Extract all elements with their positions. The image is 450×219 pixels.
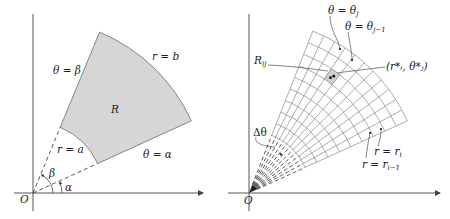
origin-label: O <box>244 194 253 206</box>
theta-alpha-label: θ = α <box>143 148 172 160</box>
r-i-minus-1-label: r = ri−1 <box>362 158 400 172</box>
r-a-label: r = a <box>57 143 84 155</box>
leader-line-delta-theta <box>256 137 275 147</box>
Rij-label: Rij <box>253 54 267 68</box>
region-label: R <box>110 103 119 115</box>
leader-line-r-i1 <box>366 133 370 158</box>
ray-theta-beta <box>33 127 60 193</box>
theta-beta-label: θ = β <box>53 64 81 76</box>
leader-line-theta-j1 <box>348 32 352 60</box>
r-i-label: r = ri <box>374 145 402 159</box>
theta-j-minus-1-label: θ = θj−1 <box>345 20 386 34</box>
origin-label: O <box>20 193 29 205</box>
sample-point-label: (r*ᵢ, θ*ⱼ) <box>386 60 428 72</box>
alpha-angle-label: α <box>65 181 72 193</box>
leader-line-sample-point <box>337 67 385 73</box>
delta-theta-label: Δθ <box>253 126 267 138</box>
theta-j-label: θ = θj <box>328 4 359 18</box>
leader-line-r-i <box>378 129 381 146</box>
left-polar-region-figure: O R θ = β r = b r = a θ = α β α <box>14 14 203 211</box>
sample-point-dot <box>329 76 332 79</box>
r-b-label: r = b <box>152 50 179 62</box>
angle-alpha-arc <box>60 182 62 193</box>
right-polar-grid-figure: O θ = θj θ = θj−1 Rij (r*ᵢ, θ*ⱼ) Δθ r = … <box>228 4 440 211</box>
label-pointer-dot <box>280 153 282 155</box>
polar-regions-diagram: O R θ = β r = b r = a θ = α β α O θ = θj… <box>0 0 450 219</box>
leader-line-theta-j <box>330 16 340 49</box>
beta-angle-label: β <box>48 167 55 179</box>
sample-point-dot <box>332 75 335 78</box>
